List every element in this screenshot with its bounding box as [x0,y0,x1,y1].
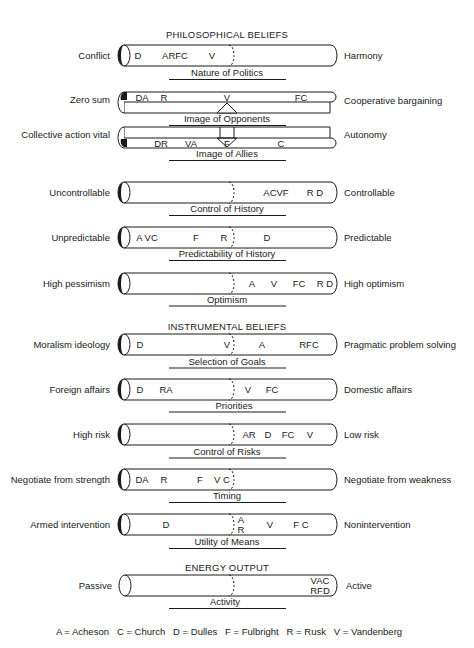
scale-title: Image of Opponents [184,113,270,124]
right-pole-label: Low risk [344,429,379,440]
right-pole-label: Autonomy [344,129,387,140]
marker: FC [295,92,308,103]
marker: D [137,384,144,395]
marker: DA [135,474,149,485]
marker: F [197,474,203,485]
left-pole-label: Conflict [78,50,110,61]
scale-control-of-history: Uncontrollable ACVF R D Controllable Con… [49,182,394,216]
marker: R D [317,278,334,289]
marker: D [265,429,272,440]
marker: V [271,278,278,289]
marker: C [278,138,285,149]
left-pole-label: High risk [73,429,110,440]
scale-title: Optimism [207,294,247,305]
left-pole-label: Moralism ideology [33,339,110,350]
marker: ARFC [162,50,188,61]
right-pole-label: Negotiate from weakness [344,474,451,485]
marker: R [238,524,245,535]
left-pole-label: Zero sum [70,94,110,105]
marker: R [161,474,168,485]
marker: D [135,50,142,61]
right-pole-label: Predictable [344,232,392,243]
marker: FC [293,278,306,289]
left-pole-label: Armed intervention [30,519,110,530]
left-pole-label: Passive [79,580,112,591]
scale-title: Timing [213,490,241,501]
marker: R [221,232,228,243]
marker: A [249,278,256,289]
scale-priorities: Foreign affairs D RA V FC Domestic affai… [49,379,412,412]
marker: FC [266,384,279,395]
scale-title: Selection of Goals [188,356,265,367]
marker: AR [242,429,255,440]
scale-image-of-opponents: Zero sum DA R V FC Cooperative bargainin… [70,92,442,126]
right-pole-label: Harmony [344,50,383,61]
scale-title: Predictability of History [179,248,276,259]
marker: FC [282,429,295,440]
marker: V [224,92,231,103]
marker: D [137,339,144,350]
right-pole-label: Active [346,580,372,591]
marker: A VC [136,232,158,243]
left-pole-label: Uncontrollable [49,187,110,198]
left-pole-label: Unpredictable [51,232,110,243]
scale-control-of-risks: High risk AR D FC V Low risk Control of … [73,424,379,458]
section-heading-philosophical: PHILOSOPHICAL BELIEFS [166,29,288,40]
marker: V [267,519,274,530]
scale-title: Control of History [190,203,264,214]
belief-scales-diagram: PHILOSOPHICAL BELIEFS Conflict D ARFC V … [0,0,474,648]
right-pole-label: Cooperative bargaining [344,95,442,106]
scale-predictability-of-history: Unpredictable A VC F R D Predictable Pre… [51,227,391,261]
marker: RFC [299,339,319,350]
right-pole-label: High optimism [344,278,404,289]
scale-title: Activity [210,596,240,607]
marker: R D [307,187,324,198]
section-heading-energy: ENERGY OUTPUT [185,562,269,573]
scale-utility-of-means: Armed intervention D A R V F C Noninterv… [30,514,410,549]
scale-title: Control of Risks [193,446,260,457]
marker: DA [135,92,149,103]
scale-image-of-allies: Collective action vital DR VA F C Autono… [21,127,387,161]
left-pole-label: High pessimism [43,278,110,289]
right-pole-label: Domestic affairs [344,384,412,395]
marker: V [245,384,252,395]
scale-selection-of-goals: Moralism ideology D V A RFC Pragmatic pr… [33,334,456,368]
marker: ACVF [263,187,289,198]
legend: A = Acheson C = Church D = Dulles F = Fu… [56,626,402,637]
marker: DR [154,138,168,149]
marker: F C [293,519,308,530]
scale-title: Nature of Politics [191,67,263,78]
right-pole-label: Controllable [344,187,395,198]
scale-timing: Negotiate from strength DA R F V C Negot… [11,469,452,503]
marker: R [161,92,168,103]
scale-nature-of-politics: Conflict D ARFC V Harmony Nature of Poli… [78,45,382,80]
marker: V [307,429,314,440]
marker: V C [214,474,230,485]
marker: RA [159,384,173,395]
marker: F [193,232,199,243]
section-heading-instrumental: INSTRUMENTAL BELIEFS [168,321,287,332]
left-pole-label: Collective action vital [21,129,110,140]
marker: RFD [310,585,330,596]
marker: A [259,339,266,350]
left-pole-label: Negotiate from strength [11,474,110,485]
marker: V [224,339,231,350]
right-pole-label: Nonintervention [344,519,411,530]
marker: V [209,50,216,61]
right-pole-label: Pragmatic problem solving [344,339,456,350]
marker: D [163,519,170,530]
scale-title: Image of Allies [196,148,258,159]
scale-optimism: High pessimism A V FC R D High optimism … [43,273,404,306]
marker: D [264,232,271,243]
scale-activity: Passive VAC RFD Active Activity [79,575,372,609]
scale-title: Priorities [216,400,253,411]
scale-title: Utility of Means [195,536,260,547]
left-pole-label: Foreign affairs [49,384,110,395]
